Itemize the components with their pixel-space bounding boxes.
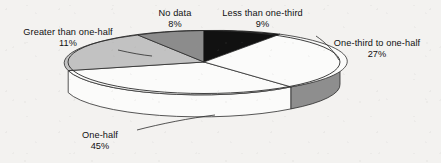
- slice-label-one-third-to-one-half: One-third to one-half 27%: [318, 38, 436, 61]
- pie-chart-figure: No data 8% Less than one-third 9% Greate…: [0, 0, 441, 163]
- slice-label-one-half-name: One-half: [82, 130, 118, 140]
- slice-label-one-third-to-one-half-name: One-third to one-half: [334, 38, 420, 48]
- slice-label-less-than-one-third-value: 9%: [209, 19, 316, 30]
- slice-label-no-data-name: No data: [159, 8, 192, 18]
- slice-label-less-than-one-third: Less than one-third 9%: [209, 8, 316, 31]
- slice-label-one-half-value: 45%: [62, 141, 138, 152]
- slice-label-one-half: One-half 45%: [62, 130, 138, 153]
- slice-label-less-than-one-third-name: Less than one-third: [222, 8, 303, 18]
- slice-label-greater-than-one-half: Greater than one-half 11%: [9, 27, 127, 50]
- slice-label-greater-than-one-half-value: 11%: [9, 38, 127, 49]
- slice-label-no-data-value: 8%: [144, 19, 206, 30]
- slice-label-one-third-to-one-half-value: 27%: [318, 49, 436, 60]
- slice-label-no-data: No data 8%: [144, 8, 206, 31]
- slice-label-greater-than-one-half-name: Greater than one-half: [23, 27, 112, 37]
